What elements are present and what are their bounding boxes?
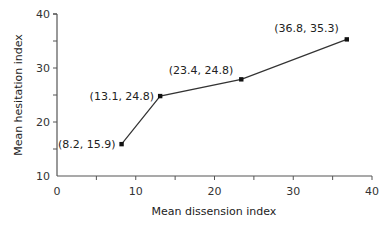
y-tick-label: 30	[36, 62, 50, 75]
data-point-marker	[119, 142, 123, 146]
data-point-marker	[158, 94, 162, 98]
data-line	[122, 39, 347, 144]
x-tick-label: 10	[129, 185, 143, 198]
data-point-label: (13.1, 24.8)	[90, 90, 155, 103]
data-point-label: (23.4, 24.8)	[169, 64, 234, 77]
data-point-marker	[345, 37, 349, 41]
data-point-label: (8.2, 15.9)	[58, 138, 116, 151]
line-chart: 01020304010203040 (8.2, 15.9)(13.1, 24.8…	[0, 0, 386, 229]
y-axis-title: Mean hesitation index	[12, 34, 25, 156]
x-tick-label: 20	[208, 185, 222, 198]
axes: 01020304010203040	[36, 8, 379, 198]
x-tick-label: 30	[286, 185, 300, 198]
y-tick-label: 20	[36, 116, 50, 129]
data-point-label: (36.8, 35.3)	[274, 22, 339, 35]
x-axis-title: Mean dissension index	[152, 205, 277, 218]
data-point-marker	[239, 77, 243, 81]
x-tick-label: 0	[54, 185, 61, 198]
y-tick-label: 40	[36, 8, 50, 21]
plot-area: (8.2, 15.9)(13.1, 24.8)(23.4, 24.8)(36.8…	[58, 22, 349, 151]
y-tick-label: 10	[36, 170, 50, 183]
x-tick-label: 40	[365, 185, 379, 198]
